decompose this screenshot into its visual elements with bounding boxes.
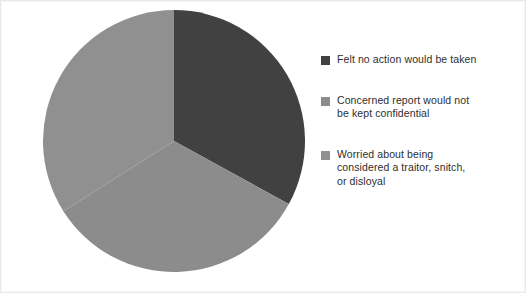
legend-item-confidentiality[interactable]: Concerned report would not be kept confi… [321, 94, 516, 121]
pie-chart [43, 10, 305, 272]
legend-swatch-icon [321, 151, 330, 160]
legend-item-label: Felt no action would be taken [337, 53, 477, 67]
legend-item-traitor-snitch[interactable]: Worried about being considered a traitor… [321, 148, 516, 189]
pie-chart-figure: Felt no action would be taken Concerned … [0, 0, 526, 293]
pie-chart-svg [43, 10, 305, 272]
pie-slice-group [43, 10, 305, 272]
legend-item-felt-no-action[interactable]: Felt no action would be taken [321, 53, 516, 67]
chart-legend: Felt no action would be taken Concerned … [321, 53, 516, 188]
legend-swatch-icon [321, 56, 330, 65]
legend-item-label: Concerned report would not be kept confi… [337, 94, 469, 121]
legend-swatch-icon [321, 97, 330, 106]
legend-item-label: Worried about being considered a traitor… [337, 148, 465, 189]
